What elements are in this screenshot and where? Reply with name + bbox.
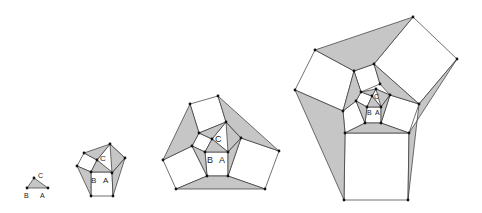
vertex-point <box>90 195 93 198</box>
vertex-point <box>407 199 410 202</box>
vertex-point <box>344 132 347 135</box>
vertex-point <box>366 106 369 109</box>
vertex-point <box>456 58 459 61</box>
vertex-point <box>198 132 201 135</box>
vertex-point <box>412 16 415 19</box>
vertex-point <box>380 106 383 109</box>
vertex-point <box>240 137 243 140</box>
vertex-point <box>47 187 50 190</box>
vertex-label-a: A <box>40 192 45 199</box>
vertex-point <box>373 63 376 66</box>
vertex-point <box>375 88 378 91</box>
vertex-label-b: B <box>91 176 96 185</box>
vertex-point <box>314 49 317 52</box>
vertex-point <box>355 100 358 103</box>
vertex-point <box>90 171 93 174</box>
vertex-point <box>124 157 127 160</box>
vertex-label-b: B <box>207 155 213 165</box>
vertex-point <box>418 103 421 106</box>
vertex-point <box>364 122 367 125</box>
vertex-point <box>191 145 194 148</box>
vertex-point <box>204 151 207 154</box>
vertex-point <box>33 177 36 180</box>
vertex-point <box>227 175 230 178</box>
vertex-label-c: C <box>38 172 43 179</box>
vertex-point <box>227 151 230 154</box>
square-face <box>344 133 409 200</box>
vertex-point <box>26 187 29 190</box>
figure-stage-3: CBA <box>162 95 281 191</box>
vertex-label-a: A <box>375 109 380 116</box>
vertex-point <box>342 110 345 113</box>
vertex-point <box>353 70 356 73</box>
vertex-point <box>264 188 267 191</box>
vertex-point <box>294 89 297 92</box>
vertex-point <box>380 122 383 125</box>
vertex-point <box>379 83 382 86</box>
vertex-label-b: B <box>367 109 372 116</box>
vertex-point <box>217 95 220 98</box>
vertex-point <box>83 152 86 155</box>
vertex-point <box>109 143 112 146</box>
vertex-point <box>111 172 114 175</box>
figure-stage-1: CBA <box>24 172 49 199</box>
vertex-point <box>112 195 115 198</box>
vertex-label-c: C <box>374 93 379 100</box>
vertex-point <box>389 94 392 97</box>
vertex-point <box>175 188 178 191</box>
vertex-point <box>211 138 214 141</box>
vertex-point <box>76 165 79 168</box>
vertex-point <box>225 121 228 124</box>
figure-stage-4: CBA <box>294 16 459 202</box>
vertex-point <box>206 175 209 178</box>
shaded-face <box>27 178 48 188</box>
vertex-point <box>343 199 346 202</box>
figure-stage-2: CBA <box>76 143 127 198</box>
vertex-label-c: C <box>100 154 106 163</box>
vertex-label-a: A <box>219 155 225 165</box>
geometric-diagram: CBA CBA CBA CBA <box>0 0 482 213</box>
vertex-label-c: C <box>215 134 222 144</box>
vertex-point <box>189 103 192 106</box>
vertex-point <box>96 159 99 162</box>
vertex-point <box>360 91 363 94</box>
vertex-point <box>278 150 281 153</box>
vertex-label-b: B <box>24 192 29 199</box>
vertex-point <box>162 159 165 162</box>
vertex-point <box>371 95 374 98</box>
vertex-point <box>408 132 411 135</box>
vertex-label-a: A <box>103 176 109 185</box>
